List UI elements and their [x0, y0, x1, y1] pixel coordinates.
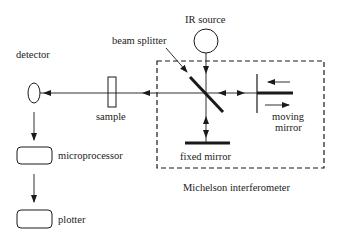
beam-splitter-label: beam splitter — [112, 35, 167, 46]
fixed-beam-arrow-up — [203, 116, 209, 124]
microprocessor-box — [17, 147, 52, 164]
plotter-label: plotter — [58, 214, 86, 225]
sample-icon — [108, 77, 116, 107]
beam-arrow-to-detector — [43, 90, 51, 96]
detector-label: detector — [16, 49, 50, 60]
ir-source-icon — [194, 29, 218, 53]
fixed-mirror-label: fixed mirror — [180, 151, 232, 162]
ftir-diagram: IR source beam splitter fixed mirror mov… — [0, 0, 340, 248]
beam-arrow-to-sample — [142, 90, 150, 96]
moving-beam-arrow-left — [218, 90, 226, 96]
beam-splitter-icon — [190, 77, 223, 112]
moving-mirror-label-2: mirror — [275, 122, 302, 133]
sample-label: sample — [96, 111, 126, 122]
interferometer-label: Michelson interferometer — [183, 182, 291, 193]
moving-beam-arrow-right — [237, 90, 245, 96]
ir-source-label: IR source — [185, 14, 226, 25]
fixed-beam-arrow-down — [203, 130, 209, 138]
detector-icon — [28, 83, 40, 103]
microprocessor-label: microprocessor — [58, 150, 123, 161]
plotter-box — [17, 210, 52, 228]
beam-splitter-pointer — [166, 48, 187, 72]
source-beam-arrow — [203, 66, 209, 74]
moving-mirror-label-1: moving — [272, 111, 305, 122]
